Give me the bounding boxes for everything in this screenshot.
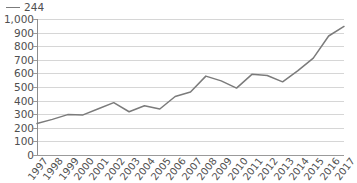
legend-entry-label: 244 [24, 2, 44, 13]
x-axis-labels: 1997 1998 1999 2000 2001 2002 2003 2004 … [37, 156, 344, 183]
y-axis-tick-marks [0, 19, 37, 155]
legend-line-marker-icon [6, 7, 20, 8]
chart-title-remnant [0, 0, 347, 5]
series-line-group [37, 19, 344, 155]
series-line-244 [37, 26, 344, 123]
plot-area [37, 19, 344, 155]
